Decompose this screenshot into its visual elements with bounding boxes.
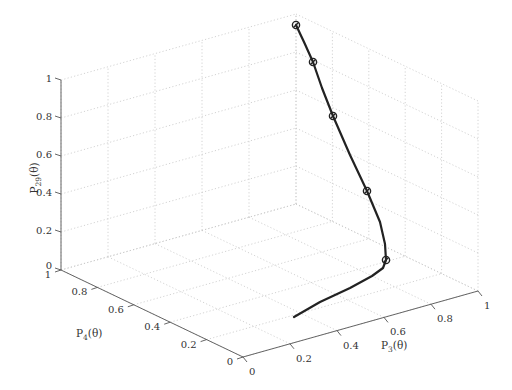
y-tick (201, 340, 207, 342)
back-wall-grid-line (61, 166, 296, 232)
floor-grid-line (207, 274, 442, 340)
y-axis-label: P4(θ) (76, 327, 102, 342)
floor-grid-line (155, 244, 337, 331)
z-tick-label: 0.6 (36, 149, 52, 160)
z-tick-label: 0.8 (36, 111, 52, 122)
side-wall-grid-line (296, 204, 478, 291)
floor-grid-line (170, 256, 405, 322)
axes (55, 78, 482, 362)
x-tick (478, 291, 482, 296)
z-tick (55, 230, 61, 232)
x-tick (337, 331, 341, 336)
y-tick (91, 287, 97, 289)
x-tick (290, 344, 294, 349)
y-tick-label: 0.2 (181, 339, 197, 350)
x-tick-label: 0.4 (343, 340, 359, 351)
x-tick-label: 0.2 (296, 353, 312, 364)
chart-3d-plot: 00.20.40.60.8100.20.40.60.8100.20.40.60.… (0, 0, 512, 390)
floor-grid-line (108, 257, 290, 344)
floor-grid-line (202, 230, 384, 317)
x-tick-label: 1 (484, 300, 490, 311)
x-tick-label: 0 (249, 366, 255, 377)
y-tick-label: 0 (227, 356, 233, 367)
back-wall-grid-line (61, 14, 296, 80)
z-tick (55, 78, 61, 80)
side-wall-grid-line (296, 52, 478, 139)
z-tick-label: 0.2 (36, 225, 52, 236)
back-wall-grid-line (61, 52, 296, 118)
floor-grid-line (97, 221, 332, 287)
z-tick (55, 154, 61, 156)
z-tick-label: 1 (46, 73, 52, 84)
side-wall-grid-line (296, 128, 478, 215)
back-wall-grid-line (61, 128, 296, 194)
z-tick (55, 192, 61, 194)
x-tick (384, 317, 388, 322)
y-axis-line (61, 270, 243, 357)
y-tick-label: 0.4 (144, 321, 160, 332)
y-tick (237, 357, 243, 359)
side-wall-grid-line (296, 166, 478, 253)
y-tick (128, 305, 134, 307)
floor-grid-line (296, 204, 478, 291)
z-tick-label: 0 (46, 260, 52, 271)
trajectory-line (294, 25, 386, 317)
trajectory-markers (292, 21, 389, 263)
x-tick-label: 0.6 (390, 326, 406, 337)
x-tick (243, 357, 247, 362)
x-axis-label: P3(θ) (381, 339, 407, 354)
z-tick (55, 116, 61, 118)
back-wall-grid-line (61, 90, 296, 156)
y-tick-label: 0.6 (108, 304, 124, 315)
z-tick (55, 268, 61, 270)
y-tick (164, 322, 170, 324)
side-wall-grid-line (296, 14, 478, 101)
x-tick (431, 304, 435, 309)
y-tick (55, 270, 61, 272)
floor-grid-line (249, 217, 431, 304)
y-tick-label: 0.8 (71, 286, 87, 297)
back-wall-grid-line (61, 204, 296, 270)
tick-labels: 00.20.40.60.8100.20.40.60.8100.20.40.60.… (36, 73, 490, 377)
side-wall-grid-line (296, 90, 478, 177)
x-tick-label: 0.8 (437, 313, 453, 324)
